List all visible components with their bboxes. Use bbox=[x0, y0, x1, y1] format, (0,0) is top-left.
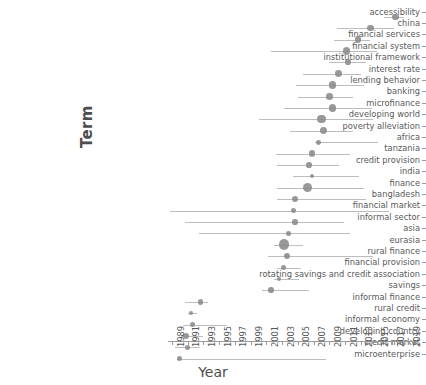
y-tick-mark bbox=[422, 194, 426, 195]
x-tick-mark bbox=[377, 341, 378, 345]
data-point bbox=[284, 253, 290, 259]
whisker-line bbox=[284, 108, 372, 109]
y-tick-mark bbox=[422, 228, 426, 229]
x-tick-mark bbox=[392, 341, 393, 345]
whisker-line bbox=[334, 40, 370, 41]
y-tick-mark bbox=[422, 148, 426, 149]
y-tick-mark bbox=[422, 80, 426, 81]
x-tick-mark bbox=[219, 341, 220, 345]
data-point bbox=[306, 162, 312, 168]
x-tick-label: 2005 bbox=[301, 326, 311, 347]
x-tick-label: 2003 bbox=[286, 326, 296, 347]
x-tick-label: 1999 bbox=[254, 326, 264, 347]
x-tick-label: 2015 bbox=[380, 326, 390, 347]
x-tick-label: 1989 bbox=[176, 326, 186, 347]
data-point bbox=[335, 70, 342, 77]
whisker-line bbox=[293, 176, 359, 177]
data-point bbox=[326, 93, 333, 100]
x-tick-label: 2007 bbox=[317, 326, 327, 347]
y-tick-mark bbox=[422, 183, 426, 184]
data-point bbox=[198, 299, 204, 305]
x-tick-label: 2019 bbox=[412, 326, 422, 347]
data-point bbox=[329, 104, 336, 111]
y-tick-mark bbox=[422, 171, 426, 172]
y-tick-mark bbox=[422, 114, 426, 115]
x-tick-label: 2009 bbox=[333, 326, 343, 347]
plot-area bbox=[172, 6, 416, 336]
y-tick-mark bbox=[422, 251, 426, 252]
y-tick-mark bbox=[422, 160, 426, 161]
data-point bbox=[292, 219, 298, 225]
y-tick-mark bbox=[422, 297, 426, 298]
whisker-line bbox=[303, 74, 361, 75]
data-point bbox=[309, 150, 316, 157]
dot-whisker-chart: Term accessibilitychinafinancial service… bbox=[0, 0, 426, 385]
x-tick-mark bbox=[188, 341, 189, 345]
x-tick-label: 2013 bbox=[364, 326, 374, 347]
data-point bbox=[177, 356, 182, 361]
data-point bbox=[320, 127, 327, 134]
whisker-line bbox=[315, 142, 378, 143]
y-tick-mark bbox=[422, 126, 426, 127]
term-label-text: microenterprise bbox=[354, 349, 420, 359]
data-point bbox=[286, 231, 291, 236]
y-tick-mark bbox=[422, 342, 426, 343]
data-point bbox=[291, 208, 296, 213]
x-tick-label: 1995 bbox=[223, 326, 233, 347]
data-point bbox=[281, 265, 286, 270]
data-point bbox=[316, 140, 321, 145]
y-tick-mark bbox=[422, 354, 426, 355]
x-tick-mark bbox=[235, 341, 236, 345]
whisker-line bbox=[259, 119, 374, 120]
data-point bbox=[317, 115, 325, 123]
data-point bbox=[343, 47, 351, 55]
data-point bbox=[355, 36, 361, 42]
data-point bbox=[303, 183, 312, 192]
y-tick-mark bbox=[422, 23, 426, 24]
whisker-line bbox=[177, 359, 327, 360]
x-tick-mark bbox=[251, 341, 252, 345]
whisker-line bbox=[277, 199, 365, 200]
y-tick-mark bbox=[422, 285, 426, 286]
x-tick-mark bbox=[345, 341, 346, 345]
whisker-line bbox=[277, 188, 364, 189]
y-tick-mark bbox=[422, 69, 426, 70]
x-tick-mark bbox=[361, 341, 362, 345]
y-tick-mark bbox=[422, 103, 426, 104]
y-tick-mark bbox=[422, 217, 426, 218]
data-point bbox=[189, 311, 193, 315]
x-tick-label: 2001 bbox=[270, 326, 280, 347]
data-point bbox=[310, 174, 314, 178]
y-tick-mark bbox=[422, 331, 426, 332]
x-tick-label: 1997 bbox=[238, 326, 248, 347]
y-tick-mark bbox=[422, 240, 426, 241]
x-tick-mark bbox=[172, 341, 173, 345]
whisker-line bbox=[199, 233, 350, 234]
x-tick-mark bbox=[203, 341, 204, 345]
y-axis-title: Term bbox=[78, 105, 96, 148]
x-tick-label: 2011 bbox=[349, 326, 359, 347]
x-tick-label: 1993 bbox=[207, 326, 217, 347]
y-tick-mark bbox=[422, 205, 426, 206]
x-tick-label: 1991 bbox=[191, 326, 201, 347]
y-tick-mark bbox=[422, 274, 426, 275]
x-tick-mark bbox=[282, 341, 283, 345]
x-tick-mark bbox=[408, 341, 409, 345]
x-tick-mark bbox=[298, 341, 299, 345]
x-tick-label: 2017 bbox=[396, 326, 406, 347]
data-point bbox=[367, 25, 374, 32]
whisker-line bbox=[337, 28, 394, 29]
data-point bbox=[279, 239, 289, 249]
whisker-line bbox=[185, 302, 209, 303]
y-tick-mark bbox=[422, 12, 426, 13]
y-tick-mark bbox=[422, 319, 426, 320]
y-tick-mark bbox=[422, 57, 426, 58]
y-tick-mark bbox=[422, 46, 426, 47]
y-tick-mark bbox=[422, 137, 426, 138]
y-tick-mark bbox=[422, 308, 426, 309]
data-point bbox=[268, 287, 274, 293]
x-tick-mark bbox=[266, 341, 267, 345]
x-tick-mark bbox=[314, 341, 315, 345]
y-tick-mark bbox=[422, 91, 426, 92]
y-tick-mark bbox=[422, 34, 426, 35]
